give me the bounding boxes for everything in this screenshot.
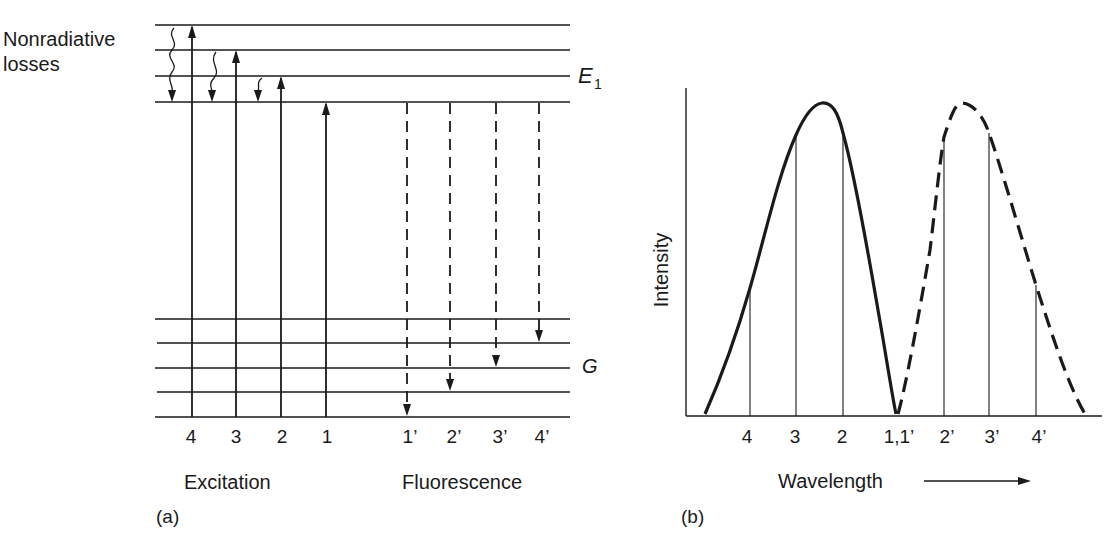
svg-text:4’: 4’ [1032, 426, 1047, 447]
fluorescence-spectrum-curve [898, 103, 1085, 414]
svg-text:2: 2 [277, 426, 288, 447]
wavelength-direction-arrow [924, 477, 1031, 485]
svg-text:1,1’: 1,1’ [884, 426, 915, 447]
nonradiative-label: Nonradiative [3, 28, 115, 50]
svg-text:1: 1 [322, 426, 333, 447]
fluorescence-label: Fluorescence [402, 471, 522, 493]
excited-state-label: E [578, 63, 593, 88]
x-axis-label: Wavelength [778, 470, 883, 492]
excitation-transition-labels: 4 3 2 1 [186, 426, 333, 447]
excited-state-levels [155, 25, 570, 102]
panel-a-caption: (a) [156, 506, 179, 527]
ground-state-label: G [582, 355, 598, 377]
spectrum-chart [686, 88, 1102, 416]
fluorescence-transition-labels: 1’ 2’ 3’ 4’ [403, 426, 550, 447]
ground-state-levels [155, 319, 570, 417]
svg-text:2’: 2’ [940, 426, 955, 447]
svg-text:1’: 1’ [403, 426, 418, 447]
svg-text:3: 3 [231, 426, 242, 447]
excitation-label: Excitation [184, 471, 271, 493]
nonradiative-loss-arrows [168, 28, 262, 102]
svg-text:2’: 2’ [447, 426, 462, 447]
wavelength-drop-lines [750, 133, 1036, 416]
energy-level-diagram [155, 25, 570, 417]
svg-text:4: 4 [742, 426, 753, 447]
panel-b-caption: (b) [681, 506, 704, 527]
svg-text:3’: 3’ [493, 426, 508, 447]
y-axis-label: Intensity [650, 233, 672, 307]
excited-state-subscript: 1 [594, 76, 602, 92]
svg-text:3’: 3’ [985, 426, 1000, 447]
svg-text:4: 4 [186, 426, 197, 447]
fluorescence-figure: Nonradiative losses E 1 G 4 3 2 1 1’ 2’ … [0, 0, 1113, 554]
svg-text:3: 3 [790, 426, 801, 447]
svg-text:2: 2 [837, 426, 848, 447]
x-axis-tick-labels: 4 3 2 1,1’ 2’ 3’ 4’ [742, 426, 1047, 447]
svg-text:4’: 4’ [535, 426, 550, 447]
losses-label: losses [3, 53, 60, 75]
excitation-spectrum-curve [705, 103, 896, 414]
fluorescence-arrows [407, 103, 539, 405]
